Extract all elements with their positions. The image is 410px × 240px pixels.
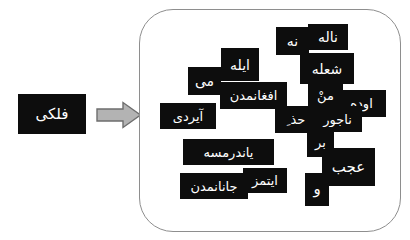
word-tile-label: افغانمدن [230, 89, 278, 102]
word-tile-label: ایتمز [252, 174, 278, 187]
word-tile-label: نه [287, 34, 298, 48]
word-tile-afghanmadan[interactable]: افغانمدن [220, 82, 287, 109]
source-word-label: فلکی [36, 107, 69, 122]
right-arrow-icon [96, 101, 142, 129]
word-tile-label: ایله [230, 58, 250, 72]
word-tile-label: حذ ِ [287, 113, 306, 126]
word-tile-label: جانانمدن [190, 180, 237, 193]
word-tile-itmaz[interactable]: ایتمز [243, 168, 287, 193]
word-tile-label: ناجور [323, 113, 352, 126]
word-tile-ayerdi[interactable]: آیردی [160, 103, 216, 129]
word-tile-man[interactable]: منْ [308, 83, 343, 108]
word-tile-label: می [195, 74, 214, 88]
word-tile-label: منْ [317, 89, 334, 102]
word-tile-janananmadan[interactable]: جانانمدن [180, 173, 248, 199]
word-tile-yandrmasa[interactable]: یاندرمسه [183, 139, 274, 165]
word-tile-haz[interactable]: حذ ِ [275, 106, 317, 133]
source-word-box[interactable]: فلکی [18, 94, 86, 134]
word-tile-mi[interactable]: می [188, 67, 221, 95]
word-tile-label: عجب [332, 160, 365, 175]
word-tile-shole[interactable]: شعله [300, 53, 354, 84]
word-tile-label: یاندرمسه [204, 146, 254, 159]
word-tile-label: ناله [318, 30, 338, 44]
word-tile-label: و [313, 182, 320, 197]
word-tile-na[interactable]: نه [276, 27, 309, 55]
word-tile-ile[interactable]: ایله [221, 48, 259, 81]
word-tile-label: شعله [312, 62, 343, 76]
word-tile-label: آیردی [173, 110, 203, 123]
word-tile-va[interactable]: و [305, 173, 329, 206]
word-tile-nale[interactable]: ناله [308, 24, 348, 50]
word-tile-label: بر [315, 136, 326, 149]
target-word-cloud-panel: ناله نه ایله شعله می افغانمدن منْ اوده آ… [139, 9, 401, 232]
diagram-canvas: فلکی ناله نه ایله شعله می افغانمدن منْ [0, 0, 410, 240]
